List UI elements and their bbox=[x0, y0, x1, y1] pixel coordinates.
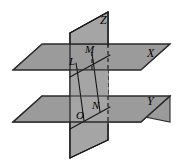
point-label-o: O bbox=[76, 110, 84, 121]
point-label-n: N bbox=[92, 100, 99, 111]
plane-label-z: Z bbox=[100, 14, 107, 26]
point-label-m: M bbox=[85, 44, 94, 55]
point-label-l: L bbox=[69, 56, 75, 67]
geometry-diagram-svg bbox=[0, 0, 178, 166]
plane-label-x: X bbox=[147, 47, 154, 59]
plane-z-bottom bbox=[70, 122, 108, 158]
plane-label-y: Y bbox=[147, 95, 154, 107]
geometry-figure: Z X Y L M O N bbox=[0, 0, 178, 166]
